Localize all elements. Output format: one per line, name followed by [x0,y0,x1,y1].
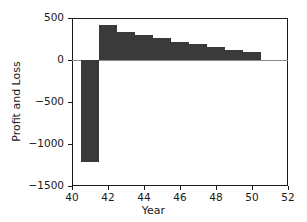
bar [153,38,171,60]
y-axis-title: Profit and Loss [11,32,22,172]
bar [189,44,207,60]
x-tick-mark [144,186,145,190]
x-tick-label: 46 [173,192,186,203]
x-tick-mark [216,186,217,190]
bar [243,52,261,60]
y-tick-label: −1000 [28,138,64,149]
x-tick-label: 40 [65,192,78,203]
y-tick-label: −500 [35,96,64,107]
x-axis-title: Year [0,205,307,216]
bar [99,25,117,60]
x-tick-label: 48 [209,192,222,203]
x-tick-mark [72,186,73,190]
bar [225,50,243,61]
y-tick-label: 0 [57,54,64,65]
x-tick-label: 44 [137,192,150,203]
x-tick-label: 52 [281,192,294,203]
bar [117,32,135,60]
x-tick-mark [252,186,253,190]
y-tick-mark [68,102,72,103]
bar-series [72,18,288,186]
x-tick-label: 50 [245,192,258,203]
y-tick-label: 500 [44,12,64,23]
y-tick-mark [68,144,72,145]
y-tick-mark [68,18,72,19]
x-tick-mark [180,186,181,190]
y-tick-label: −1500 [28,180,64,191]
chart-figure: 5000−500−1000−1500 40424446485052 Year P… [0,0,307,222]
x-tick-label: 42 [101,192,114,203]
bar [135,35,153,60]
bar [171,42,189,60]
bar [207,47,225,60]
y-tick-mark [68,60,72,61]
x-tick-mark [288,186,289,190]
x-tick-mark [108,186,109,190]
bar [81,60,99,162]
